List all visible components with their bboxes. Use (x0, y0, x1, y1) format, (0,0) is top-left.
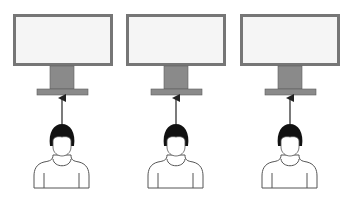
diagram-canvas (0, 0, 347, 197)
person-face (53, 137, 71, 156)
person-face (281, 137, 299, 156)
person-icon (34, 124, 89, 188)
person-icon (262, 124, 317, 188)
monitor-icon (13, 14, 113, 95)
person-face (167, 137, 185, 156)
monitor-screen (16, 17, 110, 63)
unit-1 (13, 14, 113, 188)
monitor-base (37, 89, 88, 95)
unit-2 (126, 14, 226, 188)
monitor-icon (240, 14, 340, 95)
monitor-neck (50, 66, 74, 89)
monitor-base (151, 89, 202, 95)
monitor-base (265, 89, 316, 95)
monitor-neck (164, 66, 188, 89)
person-body (34, 155, 89, 188)
person-icon (148, 124, 203, 188)
person-body (148, 155, 203, 188)
monitor-screen (243, 17, 337, 63)
monitor-icon (126, 14, 226, 95)
monitor-screen (129, 17, 223, 63)
diagram (0, 0, 347, 197)
person-body (262, 155, 317, 188)
monitor-neck (278, 66, 302, 89)
unit-3 (240, 14, 340, 188)
